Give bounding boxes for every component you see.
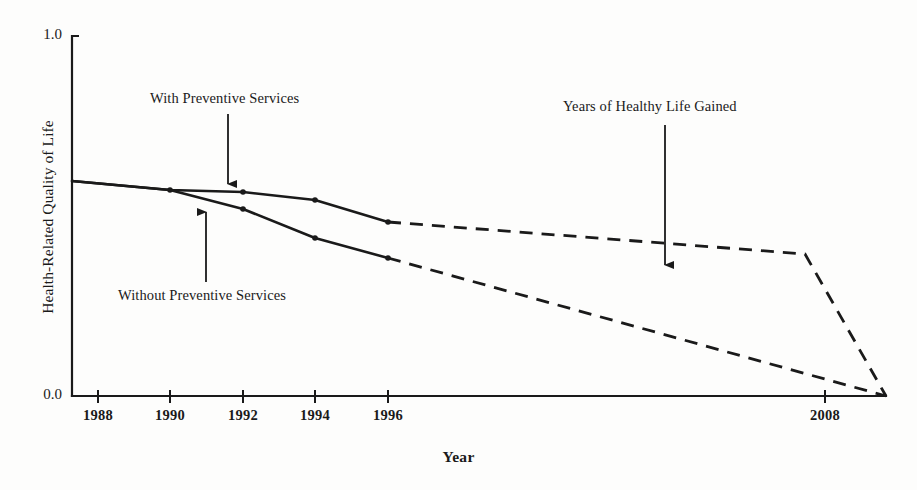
annotation-with-preventive-services: With Preventive Services [150, 90, 299, 107]
series-with-preventive-solid [72, 181, 388, 222]
chart-figure: 1.0 0.0 1988 1990 1992 1994 1996 2008 He… [0, 0, 917, 490]
y-axis-title: Health-Related Quality of Life [39, 67, 57, 367]
y-tick-label-max: 1.0 [10, 26, 62, 43]
series-with-preventive-dashed [388, 222, 886, 396]
series-with-preventive-markers [167, 187, 391, 225]
annotation-years-of-healthy-life-gained: Years of Healthy Life Gained [563, 98, 737, 115]
x-tick-label-1994: 1994 [285, 407, 345, 424]
chart-plot-area [0, 0, 917, 490]
annotation-without-preventive-services: Without Preventive Services [118, 287, 286, 304]
y-tick-label-min: 0.0 [10, 386, 62, 403]
x-axis-title: Year [0, 448, 917, 466]
series-without-preventive-dashed [388, 258, 886, 396]
x-tick-label-1992: 1992 [213, 407, 273, 424]
x-tick-label-2008: 2008 [795, 407, 855, 424]
x-tick-label-1990: 1990 [140, 407, 200, 424]
x-tick-label-1996: 1996 [358, 407, 418, 424]
x-tick-label-1988: 1988 [68, 407, 128, 424]
